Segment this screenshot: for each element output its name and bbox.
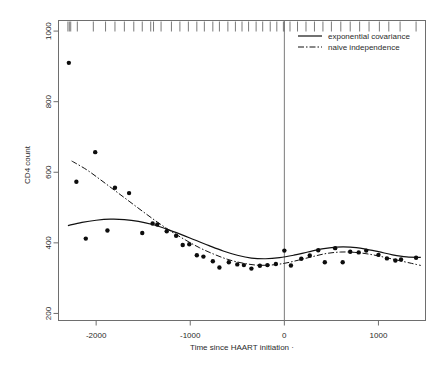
x-tick-label: 0 [282, 331, 287, 340]
chart-figure: -2000-100001000 2004006008001000 Time si… [0, 0, 447, 366]
x-axis-title: Time since HAART initiation · [190, 343, 294, 352]
x-tick-label: 1000 [370, 331, 388, 340]
data-point [227, 260, 231, 264]
cd4-scatter-plot: -2000-100001000 2004006008001000 Time si… [0, 0, 447, 366]
data-point [74, 180, 78, 184]
data-point [249, 266, 253, 270]
data-point [181, 243, 185, 247]
data-point [150, 221, 154, 225]
data-point [316, 248, 320, 252]
data-point [201, 254, 205, 258]
data-point [93, 150, 97, 154]
x-axis-ticks [96, 321, 378, 326]
y-tick-label: 400 [45, 236, 54, 250]
y-tick-label: 800 [45, 94, 54, 108]
data-point [258, 264, 262, 268]
data-point [333, 246, 337, 250]
chart-legend: exponential covariance naive independenc… [298, 32, 410, 52]
data-point [155, 222, 159, 226]
data-point [187, 242, 191, 246]
data-point [274, 262, 278, 266]
y-tick-label: 600 [45, 165, 54, 179]
data-points [67, 61, 419, 271]
data-point [399, 257, 403, 261]
x-tick-label: -2000 [86, 331, 107, 340]
data-point [414, 255, 418, 259]
data-point [385, 256, 389, 260]
data-point [364, 248, 368, 252]
data-point [323, 260, 327, 264]
data-point [195, 253, 199, 257]
y-axis-title: CD4 count [23, 145, 32, 184]
data-point [165, 229, 169, 233]
y-axis-ticks [54, 31, 59, 313]
legend-label-exponential-covariance: exponential covariance [328, 32, 410, 41]
data-point [105, 228, 109, 232]
legend-label-naive-independence: naive independence [328, 43, 400, 52]
data-point [174, 234, 178, 238]
rug-marks [68, 22, 416, 32]
data-point [140, 231, 144, 235]
data-point [308, 253, 312, 257]
data-point [242, 263, 246, 267]
data-point [299, 257, 303, 261]
data-point [282, 248, 286, 252]
x-tick-label: -1000 [180, 331, 201, 340]
data-point [127, 191, 131, 195]
data-point [348, 249, 352, 253]
data-point [376, 253, 380, 257]
data-point [67, 61, 71, 65]
data-point [211, 259, 215, 263]
plot-frame [59, 21, 426, 321]
data-point [393, 258, 397, 262]
data-point [235, 262, 239, 266]
x-axis-tick-labels: -2000-100001000 [86, 331, 388, 340]
y-axis-tick-labels: 2004006008001000 [45, 22, 54, 320]
data-point [356, 250, 360, 254]
y-tick-label: 1000 [45, 22, 54, 40]
data-point [289, 263, 293, 267]
data-point [265, 263, 269, 267]
data-point [340, 260, 344, 264]
data-point [113, 186, 117, 190]
data-point [84, 236, 88, 240]
curve-exponential-covariance [68, 219, 421, 259]
y-tick-label: 200 [45, 306, 54, 320]
data-point [217, 265, 221, 269]
